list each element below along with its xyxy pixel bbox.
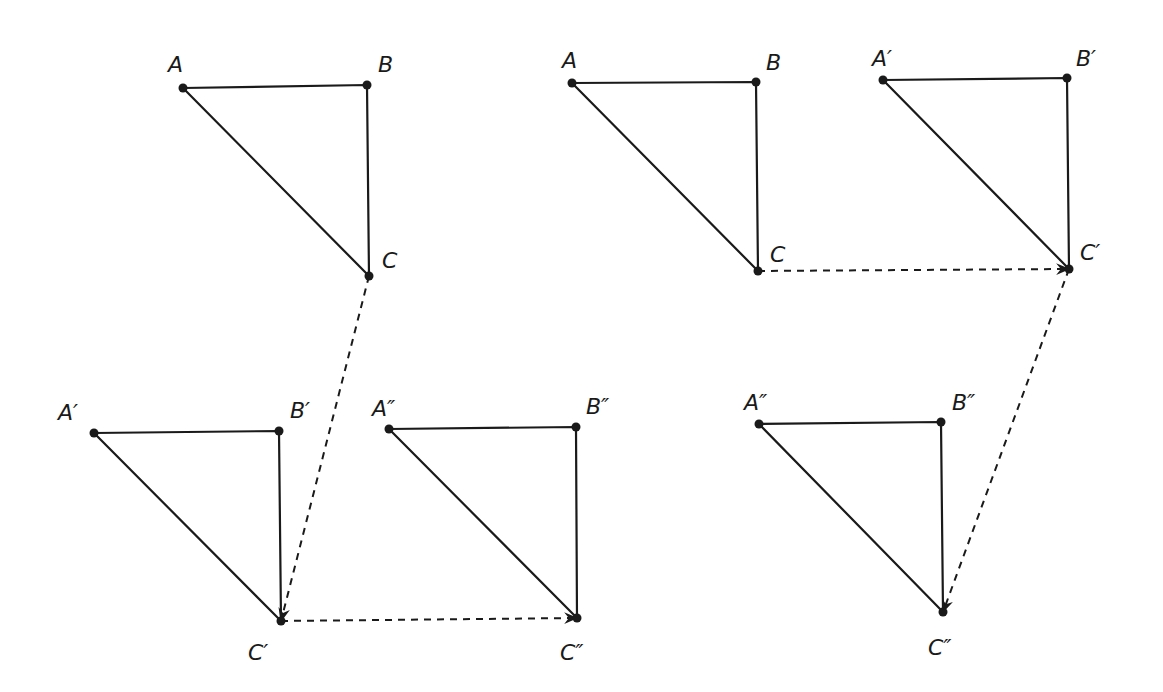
- vertex-point: [90, 429, 99, 438]
- triangle-outline: [759, 422, 943, 612]
- vertex-label: C′: [1080, 240, 1100, 265]
- vertex-point: [755, 420, 764, 429]
- vertex-point: [572, 423, 581, 432]
- translation-C-prime-to-C-double-prime-arrow: [281, 618, 577, 621]
- vertex-label: A″: [742, 390, 768, 415]
- vertex-label: B: [766, 50, 781, 75]
- vertex-point: [363, 81, 372, 90]
- triangle-AppBppCpp: A″B″C″: [742, 390, 976, 660]
- triangle-ABC: ABC: [560, 48, 786, 276]
- vertex-point: [568, 79, 577, 88]
- translation-C-to-C-prime-arrow: [758, 269, 1069, 271]
- vertex-label: A″: [370, 396, 396, 421]
- vertex-label: A′: [870, 46, 892, 71]
- translation-diagram: ABCA′B′C′A″B″C″ABCA′B′C′A″B″C″: [0, 0, 1163, 692]
- vertex-label: C′: [248, 640, 268, 665]
- vertex-point: [1065, 265, 1074, 274]
- vertex-label: C: [382, 248, 398, 273]
- translation-C-prime-to-C-double-prime-arrow: [943, 269, 1069, 612]
- triangle-outline: [883, 78, 1069, 269]
- translation-C-to-C-prime-arrow: [281, 276, 369, 621]
- vertex-label: B″: [952, 390, 976, 415]
- triangle-outline: [572, 82, 758, 271]
- right-panel: ABCA′B′C′A″B″C″: [560, 46, 1100, 660]
- vertex-point: [937, 418, 946, 427]
- vertex-label: C: [770, 242, 786, 267]
- vertex-label: A: [560, 48, 577, 73]
- vertex-point: [939, 608, 948, 617]
- triangle-outline: [94, 431, 281, 621]
- vertex-point: [179, 84, 188, 93]
- vertex-label: C″: [928, 635, 952, 660]
- vertex-point: [752, 78, 761, 87]
- vertex-point: [275, 427, 284, 436]
- triangle-outline: [389, 427, 577, 618]
- vertex-point: [385, 425, 394, 434]
- triangle-outline: [183, 85, 369, 276]
- vertex-label: B′: [290, 398, 310, 423]
- triangle-ApBpCp: A′B′C′: [56, 398, 310, 665]
- vertex-point: [277, 617, 286, 626]
- triangle-ABC: ABC: [166, 52, 398, 281]
- triangle-ApBpCp: A′B′C′: [870, 46, 1100, 274]
- left-panel: ABCA′B′C′A″B″C″: [56, 52, 610, 665]
- vertex-point: [573, 614, 582, 623]
- vertex-label: A: [166, 52, 183, 77]
- vertex-point: [879, 76, 888, 85]
- vertex-label: B″: [586, 394, 610, 419]
- vertex-point: [1063, 74, 1072, 83]
- vertex-point: [365, 272, 374, 281]
- vertex-label: C″: [560, 640, 584, 665]
- vertex-point: [754, 267, 763, 276]
- vertex-label: A′: [56, 400, 78, 425]
- triangle-AppBppCpp: A″B″C″: [370, 394, 610, 665]
- vertex-label: B: [378, 52, 393, 77]
- vertex-label: B′: [1076, 46, 1096, 71]
